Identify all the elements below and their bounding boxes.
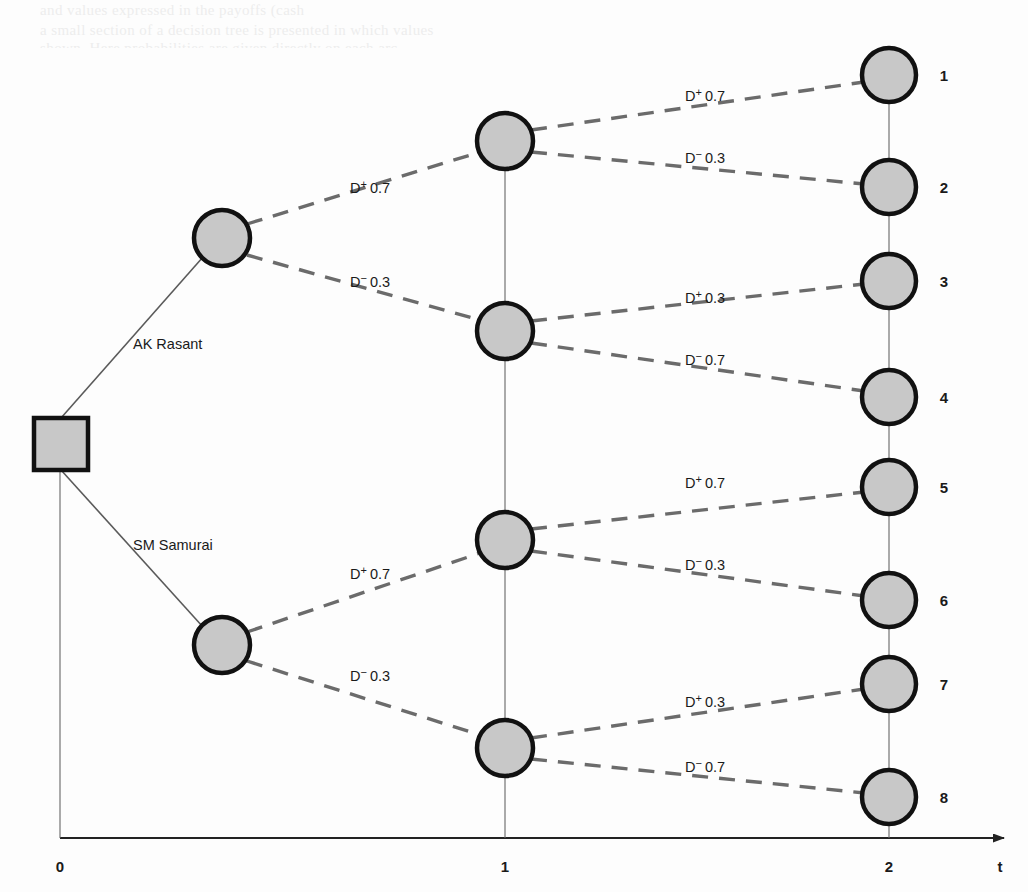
decision-label-ak-rasant: AK Rasant bbox=[133, 336, 202, 352]
prob-d-letter: D bbox=[685, 88, 695, 104]
prob-d-letter: D bbox=[685, 150, 695, 166]
prob-d-letter: D bbox=[350, 274, 360, 290]
prob-value: 0.7 bbox=[705, 352, 725, 368]
prob-label-s1-0: D+0.7 bbox=[350, 178, 390, 196]
time-axis-group: t 0 1 2 bbox=[56, 838, 1004, 875]
prob-value: 0.3 bbox=[705, 557, 725, 573]
leaf-node-3[interactable] bbox=[862, 254, 916, 308]
diagram-canvas: and values expressed in the payoffs (cas… bbox=[0, 0, 1028, 892]
leaf-label-7: 7 bbox=[940, 676, 948, 693]
prob-d-letter: D bbox=[685, 759, 695, 775]
decision-node-root[interactable] bbox=[34, 418, 88, 470]
leaf-node-2[interactable] bbox=[862, 160, 916, 214]
leaf-node-4[interactable] bbox=[862, 370, 916, 424]
stage1-chance-branches bbox=[247, 152, 480, 735]
leaf-label-3: 3 bbox=[940, 273, 948, 290]
prob-d-letter: D bbox=[350, 180, 360, 196]
prob-d-letter: D bbox=[685, 475, 695, 491]
svg-text:D+0.3: D+0.3 bbox=[685, 692, 725, 710]
stage2-chance-branches bbox=[531, 82, 864, 793]
prob-sign: + bbox=[695, 473, 701, 485]
svg-text:D+0.7: D+0.7 bbox=[685, 473, 725, 491]
prob-d-letter: D bbox=[350, 668, 360, 684]
prob-label-s2-6: D+0.3 bbox=[685, 692, 725, 710]
prob-sign: + bbox=[695, 692, 701, 704]
prob-label-s2-3: D−0.7 bbox=[685, 350, 725, 368]
leaf-node-8[interactable] bbox=[862, 770, 916, 824]
leaf-node-5[interactable] bbox=[862, 460, 916, 514]
stage1-probability-labels: D+0.7 D−0.3 D+0.7 D−0.3 bbox=[350, 178, 390, 684]
prob-value: 0.7 bbox=[370, 180, 390, 196]
leaf-label-2: 2 bbox=[940, 179, 948, 196]
chance-node-upper[interactable] bbox=[194, 210, 250, 266]
leaf-node-7[interactable] bbox=[862, 657, 916, 711]
leaf-label-6: 6 bbox=[940, 592, 948, 609]
svg-text:D+0.7: D+0.7 bbox=[685, 86, 725, 104]
prob-value: 0.3 bbox=[370, 274, 390, 290]
prob-sign: − bbox=[695, 148, 701, 160]
chance-node-t1-1[interactable] bbox=[477, 113, 533, 169]
svg-text:D−0.7: D−0.7 bbox=[685, 757, 725, 775]
leaf-label-5: 5 bbox=[940, 479, 948, 496]
chance-node-t1-3[interactable] bbox=[477, 512, 533, 568]
prob-value: 0.7 bbox=[705, 759, 725, 775]
branch-n3-to-leaf5[interactable] bbox=[531, 492, 864, 529]
prob-label-s1-3: D−0.3 bbox=[350, 666, 390, 684]
prob-label-s2-4: D+0.7 bbox=[685, 473, 725, 491]
leaf-label-4: 4 bbox=[940, 389, 949, 406]
prob-d-letter: D bbox=[685, 557, 695, 573]
svg-text:D+0.7: D+0.7 bbox=[350, 564, 390, 582]
leaf-node-6[interactable] bbox=[862, 573, 916, 627]
branch-upper-dminus[interactable] bbox=[247, 255, 480, 320]
prob-value: 0.7 bbox=[705, 88, 725, 104]
prob-d-letter: D bbox=[685, 352, 695, 368]
chance-node-lower[interactable] bbox=[194, 617, 250, 673]
decision-label-sm-samurai: SM Samurai bbox=[133, 537, 213, 553]
prob-sign: + bbox=[695, 86, 701, 98]
prob-value: 0.3 bbox=[705, 694, 725, 710]
prob-sign: + bbox=[695, 288, 701, 300]
prob-sign: − bbox=[360, 666, 366, 678]
axis-tick-label-0: 0 bbox=[56, 858, 64, 875]
prob-label-s2-5: D−0.3 bbox=[685, 555, 725, 573]
prob-label-s1-2: D+0.7 bbox=[350, 564, 390, 582]
prob-value: 0.3 bbox=[705, 150, 725, 166]
prob-d-letter: D bbox=[685, 694, 695, 710]
svg-text:D−0.3: D−0.3 bbox=[350, 666, 390, 684]
prob-label-s1-1: D−0.3 bbox=[350, 272, 390, 290]
prob-sign: + bbox=[360, 564, 366, 576]
prob-label-s2-1: D−0.3 bbox=[685, 148, 725, 166]
stage2-probability-labels: D+0.7 D−0.3 D+0.3 D−0.7 D+0.7 bbox=[685, 86, 725, 775]
prob-value: 0.3 bbox=[370, 668, 390, 684]
prob-d-letter: D bbox=[685, 290, 695, 306]
stage-vertical-lines bbox=[60, 75, 889, 838]
chance-node-t1-4[interactable] bbox=[477, 720, 533, 776]
prob-d-letter: D bbox=[350, 566, 360, 582]
svg-text:D+0.7: D+0.7 bbox=[350, 178, 390, 196]
prob-label-s2-0: D+0.7 bbox=[685, 86, 725, 104]
prob-sign: − bbox=[360, 272, 366, 284]
svg-text:D−0.3: D−0.3 bbox=[685, 555, 725, 573]
prob-value: 0.3 bbox=[705, 290, 725, 306]
svg-text:D−0.7: D−0.7 bbox=[685, 350, 725, 368]
prob-label-s2-2: D+0.3 bbox=[685, 288, 725, 306]
prob-sign: + bbox=[360, 178, 366, 190]
axis-label-t: t bbox=[998, 858, 1003, 875]
prob-value: 0.7 bbox=[705, 475, 725, 491]
prob-sign: − bbox=[695, 350, 701, 362]
chance-node-t1-2[interactable] bbox=[477, 303, 533, 359]
leaf-label-1: 1 bbox=[940, 67, 948, 84]
prob-sign: − bbox=[695, 555, 701, 567]
axis-tick-label-2: 2 bbox=[885, 858, 893, 875]
svg-text:D+0.3: D+0.3 bbox=[685, 288, 725, 306]
svg-text:D−0.3: D−0.3 bbox=[350, 272, 390, 290]
prob-value: 0.7 bbox=[370, 566, 390, 582]
svg-text:D−0.3: D−0.3 bbox=[685, 148, 725, 166]
prob-sign: − bbox=[695, 757, 701, 769]
prob-label-s2-7: D−0.7 bbox=[685, 757, 725, 775]
leaf-node-1[interactable] bbox=[862, 48, 916, 102]
decision-tree-graphic: t 0 1 2 bbox=[0, 0, 1028, 892]
axis-tick-label-1: 1 bbox=[501, 858, 509, 875]
leaf-label-8: 8 bbox=[940, 789, 948, 806]
